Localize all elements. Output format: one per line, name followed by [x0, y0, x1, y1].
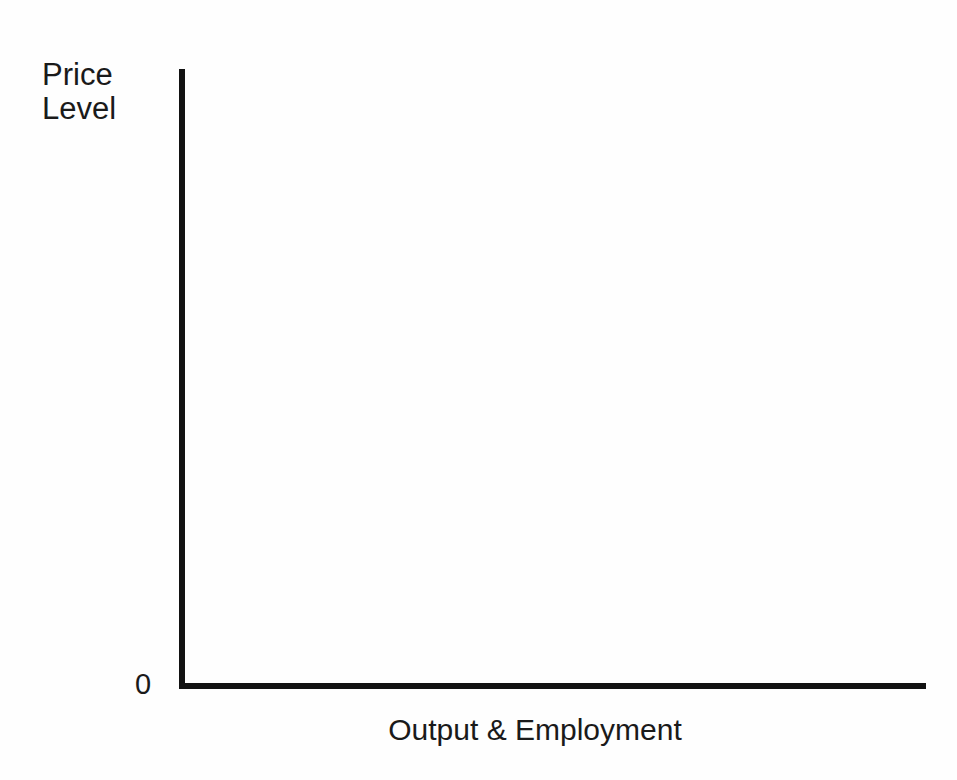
plot-area — [185, 69, 926, 683]
y-axis-line — [179, 69, 185, 689]
origin-label: 0 — [128, 668, 158, 700]
x-axis-line — [179, 683, 926, 689]
y-axis-label: Price Level — [42, 58, 172, 126]
x-axis-label: Output & Employment — [330, 712, 740, 748]
figure-canvas: Price Level Output & Employment 0 — [0, 0, 957, 780]
